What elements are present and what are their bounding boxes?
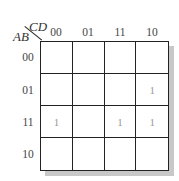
kmap-cell (73, 138, 105, 170)
row-label: 01 (18, 85, 38, 97)
row-label: 00 (18, 52, 38, 64)
kmap-cell (41, 138, 73, 170)
kmap-cell (136, 42, 168, 74)
kmap-cell (136, 138, 168, 170)
kmap-cell: 1 (136, 106, 168, 138)
kmap-cell (105, 138, 137, 170)
kmap-cell (73, 106, 105, 138)
row-variable-label: AB (13, 30, 29, 43)
row-label: 11 (18, 117, 38, 129)
kmap-grid: 1 1 1 1 (40, 41, 169, 171)
kmap-cell (105, 42, 137, 74)
kmap-cell (73, 74, 105, 106)
kmap-cell (105, 74, 137, 106)
column-label: 00 (40, 27, 72, 39)
kmap-cell: 1 (41, 106, 73, 138)
column-label: 01 (72, 27, 104, 39)
kmap-cell (41, 42, 73, 74)
kmap-cell (73, 42, 105, 74)
row-label: 10 (18, 149, 38, 161)
kmap-cell: 1 (105, 106, 137, 138)
kmap-cell: 1 (136, 74, 168, 106)
column-label: 11 (104, 27, 136, 39)
karnaugh-map: CD AB 00 01 11 10 00 01 11 10 1 1 1 1 (0, 0, 179, 181)
column-label: 10 (136, 27, 168, 39)
kmap-cell (41, 74, 73, 106)
